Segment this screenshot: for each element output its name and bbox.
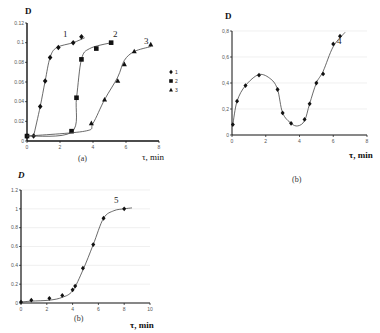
data-point-marker: [308, 101, 312, 106]
x-tick-label: 8: [123, 306, 126, 312]
curve-3-label: 3: [144, 36, 149, 46]
y-tick-label: 0: [226, 132, 229, 138]
data-point-marker: [281, 111, 285, 116]
x-tick-label: 2: [59, 144, 62, 150]
y-tick-label: 0,4: [222, 80, 229, 86]
data-point-marker: [19, 300, 23, 305]
data-point-marker: [169, 79, 173, 83]
data-point-marker: [235, 99, 239, 104]
panel-b-chart: 00,20,40,60,802468: [222, 28, 369, 144]
curve-1-label: 1: [63, 29, 68, 39]
data-point-marker: [56, 45, 61, 51]
x-tick-label: 6: [97, 306, 100, 312]
data-point-marker: [314, 81, 318, 86]
data-point-marker: [122, 206, 126, 211]
panel-a-xlabel: τ, min: [142, 152, 165, 162]
data-point-marker: [29, 298, 33, 303]
data-point-marker: [257, 73, 261, 78]
y-tick-label: 0,8: [222, 28, 229, 34]
data-point-marker: [169, 88, 173, 92]
y-tick-label: 0.12: [14, 20, 24, 26]
legend-item-label: 1: [175, 69, 178, 75]
legend-item-label: 3: [175, 87, 178, 93]
y-tick-label: 0,6: [222, 54, 229, 60]
y-tick-label: 0.04: [14, 98, 24, 104]
y-tick-label: 0.8: [11, 224, 18, 230]
panel-a-chart: 00.020.040.060.080.10.1202468123: [14, 20, 178, 150]
panel-a-caption: (a): [78, 154, 87, 163]
panel-c-ylabel: D: [17, 170, 25, 180]
panel-c-caption: (b): [74, 314, 84, 323]
figure: 00.020.040.060.080.10.1202468123 D τ, mi…: [0, 0, 380, 333]
data-point-marker: [38, 104, 43, 110]
data-point-marker: [48, 55, 53, 61]
x-tick-label: 10: [147, 306, 153, 312]
y-tick-label: 1: [15, 206, 18, 212]
panel-b-caption: (b): [292, 175, 302, 184]
series-curve-2: [27, 43, 111, 137]
curve-5-label: 5: [114, 195, 119, 205]
curve-4-label: 4: [337, 36, 342, 46]
y-tick-label: 0.08: [14, 59, 24, 65]
data-point-marker: [79, 57, 84, 62]
x-tick-label: 6: [125, 144, 128, 150]
data-point-marker: [231, 122, 235, 127]
y-tick-label: 1.2: [11, 187, 18, 193]
x-tick-label: 6: [332, 138, 335, 144]
data-point-marker: [276, 87, 280, 92]
x-tick-label: 8: [366, 138, 369, 144]
x-tick-label: 4: [298, 138, 301, 144]
data-point-marker: [148, 42, 153, 47]
panel-a-ylabel: D: [25, 6, 32, 16]
y-tick-label: 0.4: [11, 262, 18, 268]
x-tick-label: 4: [92, 144, 95, 150]
series-curve-3: [27, 47, 151, 136]
x-tick-label: 2: [264, 138, 267, 144]
data-point-marker: [321, 72, 325, 77]
data-point-marker: [169, 70, 173, 74]
data-point-marker: [109, 40, 114, 45]
panel-b-xlabel: τ, min: [349, 150, 373, 160]
x-tick-label: 2: [45, 306, 48, 312]
y-tick-label: 0.06: [14, 79, 24, 85]
series-curve-1: [34, 38, 85, 136]
x-tick-label: 4: [71, 306, 74, 312]
y-tick-label: 0.1: [17, 39, 24, 45]
legend-item-label: 2: [175, 78, 178, 84]
data-point-marker: [71, 40, 76, 46]
curve-2-label: 2: [113, 29, 118, 39]
y-tick-label: 0.2: [11, 281, 18, 287]
data-point-marker: [43, 78, 48, 84]
panel-b-ylabel: D: [225, 11, 232, 21]
data-point-marker: [331, 42, 335, 47]
x-tick-label: 8: [158, 144, 161, 150]
y-tick-label: 0.6: [11, 243, 18, 249]
data-point-marker: [74, 95, 79, 100]
data-point-marker: [94, 46, 99, 51]
data-point-marker: [102, 97, 107, 102]
x-tick-label: 0: [231, 138, 234, 144]
series-curve-4: [233, 32, 345, 126]
x-tick-label: 0: [26, 144, 29, 150]
x-tick-label: 0: [20, 306, 23, 312]
y-tick-label: 0,2: [222, 106, 229, 112]
panel-c-xlabel: τ, min: [130, 320, 154, 330]
panel-c-chart: 00.20.40.60.811.20246810: [11, 187, 153, 312]
y-tick-label: 0: [15, 300, 18, 306]
y-tick-label: 0: [21, 138, 24, 144]
y-tick-label: 0.02: [14, 118, 24, 124]
series-curve-5: [21, 208, 132, 302]
